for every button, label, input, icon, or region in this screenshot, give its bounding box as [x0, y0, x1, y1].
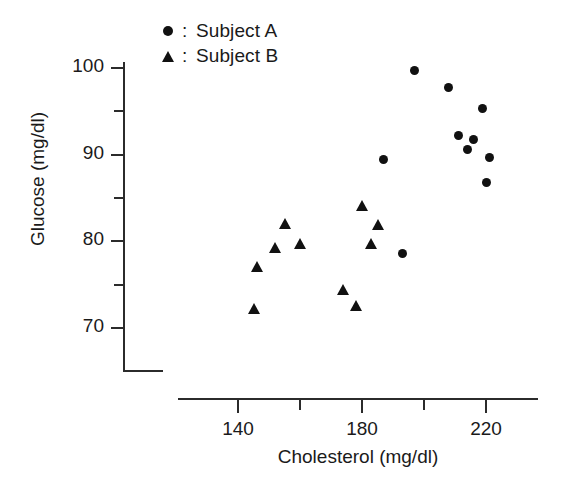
- legend-separator-a: :: [182, 18, 187, 43]
- x-tick-label-140: 140: [203, 418, 273, 440]
- data-point-subject-b: [365, 238, 377, 249]
- legend-circle-marker-icon: [160, 18, 180, 43]
- legend-triangle-marker-icon: [160, 43, 180, 68]
- x-tick-label-220: 220: [451, 418, 521, 440]
- legend-entry-subject-b: : Subject B: [160, 43, 380, 68]
- data-point-subject-a: [485, 153, 494, 162]
- y-tick-label-70: 70: [42, 315, 104, 337]
- data-point-subject-a: [469, 135, 478, 144]
- data-point-subject-a: [478, 104, 487, 113]
- data-point-subject-b: [356, 200, 368, 211]
- y-tick-label-90: 90: [42, 142, 104, 164]
- y-tick-label-80: 80: [42, 228, 104, 250]
- data-point-subject-b: [248, 303, 260, 314]
- x-axis-line: [178, 398, 538, 400]
- data-point-subject-b: [294, 238, 306, 249]
- y-tick-minor-75: [114, 284, 124, 286]
- data-point-subject-a: [482, 178, 491, 187]
- y-tick-major-100: [111, 67, 124, 69]
- x-tick-major-220: [485, 400, 487, 413]
- chart-legend: : Subject A : Subject B: [160, 18, 380, 68]
- data-point-subject-a: [410, 66, 419, 75]
- data-point-subject-b: [269, 242, 281, 253]
- x-tick-major-180: [361, 400, 363, 413]
- y-axis-foot: [123, 370, 163, 372]
- legend-entry-subject-a: : Subject A: [160, 18, 380, 43]
- data-point-subject-b: [337, 284, 349, 295]
- data-point-subject-a: [454, 131, 463, 140]
- y-tick-major-90: [111, 154, 124, 156]
- data-point-subject-b: [372, 219, 384, 230]
- legend-label-subject-b: Subject B: [196, 43, 278, 68]
- x-tick-minor-160: [299, 400, 301, 410]
- data-point-subject-b: [350, 300, 362, 311]
- y-tick-minor-95: [114, 110, 124, 112]
- data-point-subject-a: [398, 249, 407, 258]
- x-tick-major-140: [237, 400, 239, 413]
- data-point-subject-b: [251, 261, 263, 272]
- data-point-subject-a: [379, 155, 388, 164]
- y-tick-major-70: [111, 327, 124, 329]
- x-axis-title: Cholesterol (mg/dl): [178, 446, 538, 468]
- data-point-subject-a: [463, 145, 472, 154]
- y-axis-line: [123, 62, 125, 372]
- x-tick-label-180: 180: [327, 418, 397, 440]
- scatter-chart-figure: : Subject A : Subject B 100908070 Glucos…: [0, 0, 581, 477]
- data-point-subject-a: [444, 83, 453, 92]
- y-tick-major-80: [111, 240, 124, 242]
- y-tick-minor-85: [114, 197, 124, 199]
- legend-separator-b: :: [182, 43, 187, 68]
- legend-label-subject-a: Subject A: [196, 18, 277, 43]
- y-tick-label-100: 100: [42, 55, 104, 77]
- y-axis-title: Glucose (mg/dl): [27, 79, 49, 279]
- x-tick-minor-200: [423, 400, 425, 410]
- data-point-subject-b: [279, 218, 291, 229]
